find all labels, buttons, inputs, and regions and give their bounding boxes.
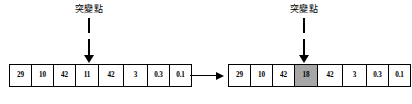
- mutation-diagram: 突變點 291042114230.30.1 突變點 291042184230.3…: [0, 0, 412, 104]
- gene-cell: 10: [32, 65, 54, 86]
- gene-cell-mutated: 18: [295, 65, 318, 86]
- arrow-shaft-lower: [88, 39, 90, 56]
- gene-cell: 0.1: [389, 65, 410, 86]
- arrow-shaft-lower: [303, 39, 305, 56]
- mutation-point-label-before: 突變點: [66, 3, 112, 15]
- gene-cell: 42: [54, 65, 76, 86]
- down-arrow-icon-before: [83, 18, 95, 64]
- gene-cell: 0.1: [170, 65, 191, 86]
- down-arrow-icon-after: [298, 18, 310, 64]
- gene-cell: 11: [76, 65, 99, 86]
- mutation-point-label-after: 突變點: [281, 3, 327, 15]
- chromosome-after: 291042184230.30.1: [228, 64, 411, 87]
- gene-cell: 3: [124, 65, 148, 86]
- gene-cell: 42: [273, 65, 295, 86]
- arrow-head: [299, 55, 309, 63]
- gene-cell: 42: [318, 65, 343, 86]
- chromosome-before: 291042114230.30.1: [9, 64, 192, 87]
- gene-cell: 29: [229, 65, 251, 86]
- arrow-head: [84, 55, 94, 63]
- gene-cell: 0.3: [148, 65, 170, 86]
- arrow-shaft-upper: [88, 18, 90, 33]
- transition-right-arrow-icon: [190, 71, 224, 80]
- gene-cell: 0.3: [367, 65, 389, 86]
- gene-cell: 3: [343, 65, 367, 86]
- arrow-shaft-upper: [303, 18, 305, 33]
- gene-cell: 29: [10, 65, 32, 86]
- transition-arrow-head: [216, 72, 224, 80]
- transition-arrow-shaft: [190, 75, 217, 76]
- gene-cell: 42: [99, 65, 124, 86]
- gene-cell: 10: [251, 65, 273, 86]
